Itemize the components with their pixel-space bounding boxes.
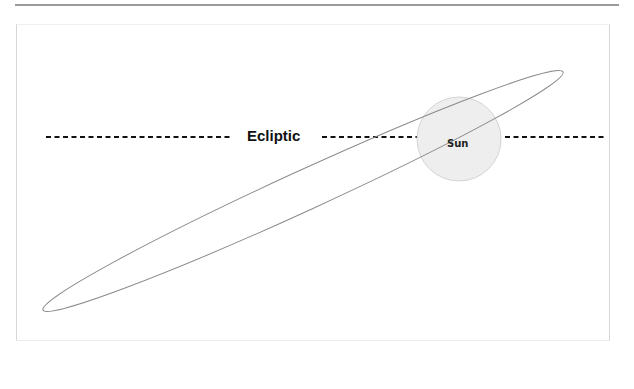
orbit-ellipse	[35, 54, 572, 328]
orbit-diagram	[0, 0, 634, 389]
sun-label: Sun	[447, 138, 468, 149]
ecliptic-label: Ecliptic	[247, 127, 300, 144]
